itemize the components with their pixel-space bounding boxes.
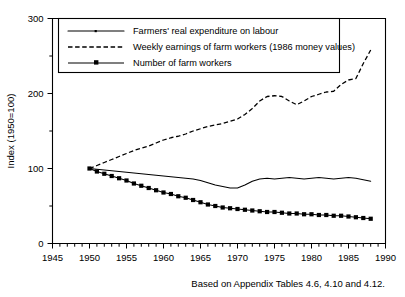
y-axis: 0100200300 <box>28 13 53 249</box>
series-marker-2 <box>339 214 343 218</box>
legend-swatch-square <box>94 60 98 64</box>
legend-swatch-solid-dot <box>95 30 97 32</box>
series-marker-2 <box>132 181 136 185</box>
x-tick-label: 1985 <box>338 252 359 263</box>
x-axis: 1945195019551960196519701975198019851990 <box>42 244 396 263</box>
series-marker-2 <box>272 210 276 214</box>
series-marker-2 <box>102 172 106 176</box>
series-marker-2 <box>369 217 373 221</box>
series-marker-2 <box>354 215 358 219</box>
series-marker-2 <box>117 176 121 180</box>
x-tick-label: 1990 <box>375 252 396 263</box>
series-marker-2 <box>184 196 188 200</box>
y-axis-title: Index (1950=100) <box>5 94 16 169</box>
y-tick-label: 100 <box>28 163 44 174</box>
series-marker-2 <box>176 194 180 198</box>
series-marker-2 <box>324 213 328 217</box>
series-marker-2 <box>154 188 158 192</box>
series-line-2 <box>90 169 371 219</box>
series-marker-2 <box>110 174 114 178</box>
x-tick-label: 1955 <box>116 252 137 263</box>
series-marker-2 <box>317 213 321 217</box>
series-marker-2 <box>191 198 195 202</box>
series-marker-2 <box>198 200 202 204</box>
series-marker-2 <box>243 208 247 212</box>
series-marker-2 <box>147 186 151 190</box>
y-tick-label: 0 <box>38 238 43 249</box>
series-marker-2 <box>213 204 217 208</box>
x-tick-label: 1945 <box>42 252 63 263</box>
series-marker-2 <box>87 166 91 170</box>
series-marker-2 <box>361 216 365 220</box>
chart-legend: Farmers' real expenditure on labour Week… <box>59 19 355 73</box>
x-tick-label: 1960 <box>153 252 174 263</box>
series-marker-2 <box>235 207 239 211</box>
legend-label-2: Number of farm workers <box>133 58 232 68</box>
series-marker-2 <box>161 190 165 194</box>
series-marker-2 <box>295 211 299 215</box>
series-marker-2 <box>287 211 291 215</box>
series-line-0 <box>90 169 371 189</box>
series-marker-2 <box>169 192 173 196</box>
farm-labour-index-chart: 0100200300 19451950195519601965197019751… <box>0 0 405 297</box>
y-tick-label: 300 <box>28 13 44 24</box>
legend-label-1: Weekly earnings of farm workers (1986 mo… <box>133 42 355 52</box>
x-tick-label: 1965 <box>190 252 211 263</box>
series-marker-2 <box>95 169 99 173</box>
series-marker-2 <box>139 184 143 188</box>
series-marker-2 <box>346 214 350 218</box>
series-marker-2 <box>228 206 232 210</box>
series-marker-2 <box>124 178 128 182</box>
series-marker-2 <box>332 214 336 218</box>
series-marker-2 <box>221 205 225 209</box>
x-tick-label: 1980 <box>301 252 322 263</box>
chart-page: 0100200300 19451950195519601965197019751… <box>0 0 405 297</box>
x-tick-label: 1975 <box>264 252 285 263</box>
series-marker-2 <box>265 210 269 214</box>
legend-label-0: Farmers' real expenditure on labour <box>133 26 278 36</box>
x-tick-label: 1970 <box>227 252 248 263</box>
series-marker-2 <box>258 209 262 213</box>
data-series-layer <box>87 50 372 221</box>
y-tick-label: 200 <box>28 88 44 99</box>
series-marker-2 <box>309 212 313 216</box>
series-marker-2 <box>280 211 284 215</box>
series-marker-2 <box>302 212 306 216</box>
x-tick-label: 1950 <box>79 252 100 263</box>
source-caption: Based on Appendix Tables 4.6, 4.10 and 4… <box>191 278 385 289</box>
series-marker-2 <box>206 202 210 206</box>
series-marker-2 <box>250 208 254 212</box>
